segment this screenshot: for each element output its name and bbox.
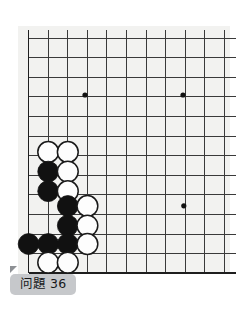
white-stone[interactable] — [38, 252, 59, 273]
black-stone[interactable] — [18, 234, 39, 255]
problem-caption-badge: 问題 36 — [10, 274, 76, 295]
black-stone[interactable] — [57, 234, 78, 255]
black-stone[interactable] — [57, 196, 78, 217]
black-stone[interactable] — [38, 161, 59, 182]
star-point — [180, 92, 185, 97]
black-stone[interactable] — [38, 234, 59, 255]
go-problem-diagram: 问題 36 — [0, 0, 242, 311]
white-stone[interactable] — [57, 142, 78, 163]
white-stone[interactable] — [57, 252, 78, 273]
white-stone[interactable] — [57, 161, 78, 182]
white-stone[interactable] — [77, 196, 98, 217]
star-point — [181, 203, 186, 208]
star-point — [82, 92, 87, 97]
page-corner-fold-icon — [10, 266, 17, 273]
go-board[interactable] — [0, 0, 242, 311]
black-stone[interactable] — [38, 181, 59, 202]
black-stone[interactable] — [57, 215, 78, 236]
problem-caption-label: 问題 36 — [20, 278, 67, 291]
white-stone[interactable] — [38, 142, 59, 163]
white-stone[interactable] — [77, 234, 98, 255]
star-points — [82, 92, 186, 208]
